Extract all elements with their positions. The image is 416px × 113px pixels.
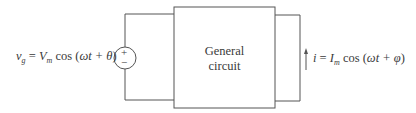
- box-label: General circuit: [174, 44, 275, 74]
- current-equation: i = Im cos (ωt + φ): [313, 51, 405, 66]
- minus-sign: −: [121, 56, 127, 68]
- arrow-head-icon: [304, 48, 308, 54]
- source-equation: vg = Vm cos (ωt + θ): [16, 49, 117, 64]
